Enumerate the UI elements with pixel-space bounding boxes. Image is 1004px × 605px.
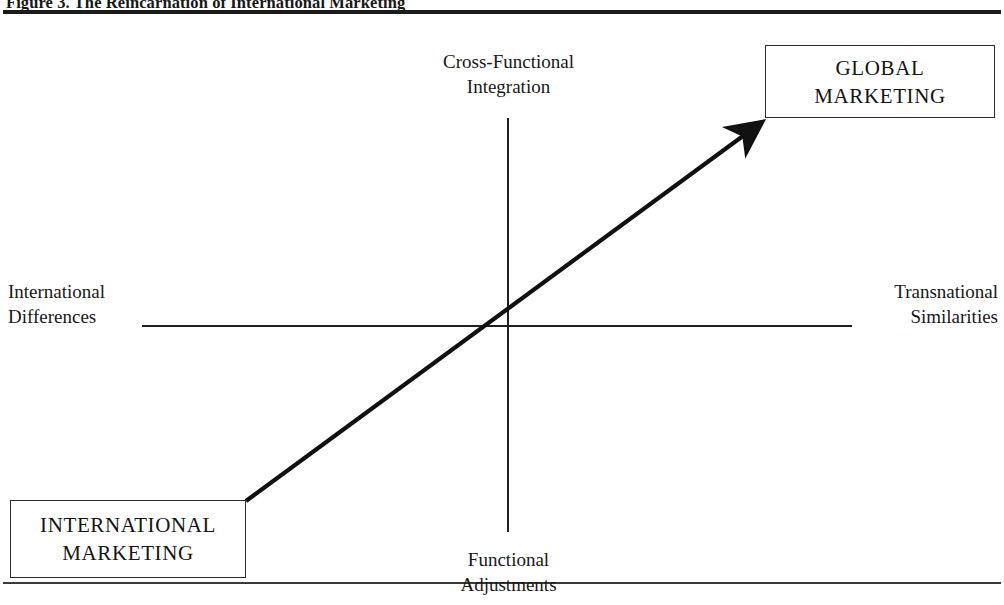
node-label-line-1: INTERNATIONAL bbox=[40, 511, 216, 539]
figure-container: Figure 3. The Reincarnation of Internati… bbox=[0, 0, 1004, 605]
diagram-plot-area: Cross-Functional Integration Internation… bbox=[0, 14, 1004, 582]
node-box-global-marketing: GLOBAL MARKETING bbox=[765, 45, 995, 118]
node-label-line-2: MARKETING bbox=[62, 539, 193, 567]
node-label-line-2: MARKETING bbox=[814, 82, 945, 110]
node-label-line-1: GLOBAL bbox=[836, 54, 925, 82]
arrow-shaft bbox=[246, 122, 762, 501]
node-box-international-marketing: INTERNATIONAL MARKETING bbox=[10, 500, 246, 578]
